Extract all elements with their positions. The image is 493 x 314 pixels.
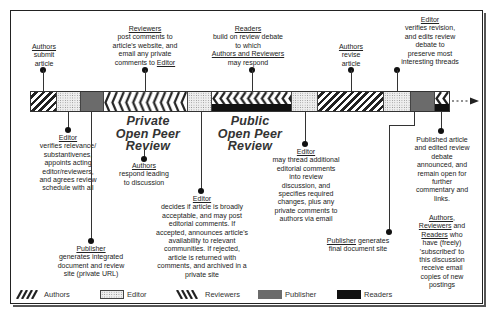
event-text: private site [142,271,262,279]
event-text: links. [402,195,482,203]
event-text: article's website, and [100,42,190,50]
event-authors-revise: Authors revise article [331,43,371,68]
event-text: debate to [385,41,475,49]
connector-line [389,125,415,126]
event-text: have (freely) [402,239,482,247]
actor-label: Authors [24,43,64,51]
connector-line [351,70,352,91]
actor-label: Editor [157,59,175,66]
connector-line [305,112,306,144]
connector-line [414,112,415,125]
event-text: verifies relevance/ [18,142,118,150]
event-publisher-final: Publisher generates final document site [310,237,406,254]
segment-reviewers-private [104,92,188,111]
legend-authors-label: Authors [44,290,70,299]
segment-reviewers-readers-public [212,92,292,111]
event-reviewers-post: Reviewers post comments to article's web… [100,25,190,67]
legend-publisher-swatch-icon [258,290,282,299]
event-text: and agrees review [18,176,118,184]
legend-readers-label: Readers [364,290,392,299]
connector-line [389,125,390,231]
actor-label: Editor [260,148,352,156]
event-text: announced, and [402,161,482,169]
event-text: respond leading [104,170,184,178]
event-text: commentary and [402,186,482,194]
connector-dot [88,238,94,244]
phase-label-private: Private Open Peer Review [108,115,188,153]
event-text: authors via email [260,215,352,223]
segment-publisher-final [411,92,435,111]
connector-line [145,70,146,91]
segment-editor-thread [292,92,318,111]
legend-editor-swatch-icon [100,290,124,299]
legend-editor-label: Editor [127,290,147,299]
legend-reviewers-swatch-icon [175,290,201,299]
actor-label: Authors [429,214,453,221]
event-text: private comments to [260,207,352,215]
event-text: document and review [41,262,141,270]
event-text: schedule with all [18,184,118,192]
phase-label-public: Public Open Peer Review [210,115,290,153]
event-text: accepted, announces article's [142,229,262,237]
actor-label: Editor [18,134,118,142]
segment-authors-revise [318,92,384,111]
actor-label: Readers [203,25,293,33]
event-published-article: Published article and edited review deba… [402,136,482,203]
event-publisher-integrate: Publisher generates integrated document … [41,245,141,279]
connector-dot [302,141,308,147]
event-text: generates integrated [41,253,141,261]
event-authors-respond: Authors respond leading to discussion [104,162,184,187]
connector-line [43,70,44,91]
event-subscribers: Authors, Reviewers and Readers who have … [402,214,482,290]
continuation-arrow-icon [451,96,483,106]
event-text: appoints acting [18,159,118,167]
event-editor-verify-relevance: Editor verifies relevance/ substantivene… [18,134,118,193]
connector-line [252,70,253,91]
actor-label: Authors and Reviewers [203,50,293,58]
event-text: and edited review [402,144,482,152]
connector-dot [438,128,444,134]
segment-editor-verify [57,92,81,111]
connector-dot [198,188,204,194]
phase-text: Private [108,115,188,128]
event-text: this discussion [402,256,482,264]
event-text: to which [203,42,293,50]
event-text: who [448,231,463,238]
event-text: submit [24,51,64,59]
event-text: receive email [402,264,482,272]
event-text: preserve most [385,50,475,58]
segment-publisher-integrate [81,92,104,111]
event-text: postings [402,281,482,289]
segment-editor-decide [188,92,212,111]
connector-line [91,112,92,240]
phase-text: Review [108,140,188,153]
event-text: may thread additional [260,156,352,164]
phase-text: Public [210,115,290,128]
legend-publisher-label: Publisher [285,290,316,299]
event-text: decides if article is broadly [142,203,262,211]
event-text: comments to [115,59,155,66]
timeline-bar [30,91,450,112]
event-text: , [453,214,455,221]
event-text: revise [331,51,371,59]
event-text: site (private URL) [41,270,141,278]
actor-label: Authors [104,162,184,170]
legend-reviewers-label: Reviewers [205,290,240,299]
connector-dot [65,127,71,133]
event-text: 'subscribed' to [402,248,482,256]
event-text: editorial comments [260,165,352,173]
event-text: into review [260,173,352,181]
actor-label: Editor [385,16,475,24]
legend-authors-swatch-icon [15,290,41,299]
connector-line [201,112,202,190]
event-text: editor/reviewers, [18,168,118,176]
actor-label: Editor [142,195,262,203]
event-text: editorial comments. If [142,220,262,228]
connector-line [397,70,398,91]
actor-label: Publisher [41,245,141,253]
event-text: copies of new [402,273,482,281]
event-editor-decide: Editor decides if article is broadly acc… [142,195,262,279]
actor-label: Reviewers [100,25,190,33]
event-text: acceptable, and may post [142,212,262,220]
event-text: post comments to [100,33,190,41]
